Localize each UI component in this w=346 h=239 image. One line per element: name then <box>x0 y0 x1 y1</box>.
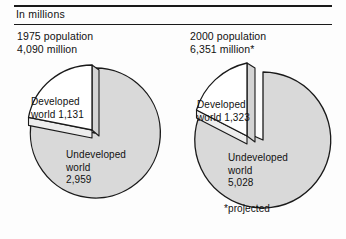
figure-container: In millions 1975 population 4,090 millio… <box>0 0 346 239</box>
pie-2000-label-undeveloped-line3: 5,028 <box>228 177 288 190</box>
pie-2000-label-undeveloped-line2: world <box>228 165 288 178</box>
column-heading-2000-year: 2000 population <box>190 30 266 42</box>
pie-2000-label-undeveloped: Undeveloped world 5,028 <box>228 152 288 190</box>
caption-divider-rule <box>14 24 332 25</box>
pie-1975-label-developed: Developed world 1,131 <box>31 96 84 121</box>
pie-1975-label-undeveloped: Undeveloped world 2,959 <box>66 149 126 187</box>
pie-2000-label-developed-line1: Developed <box>197 99 250 112</box>
pie-1975-label-undeveloped-line1: Undeveloped <box>66 149 126 162</box>
pie-1975-label-undeveloped-line3: 2,959 <box>66 174 126 187</box>
figure-footnote: *projected <box>224 203 270 214</box>
pie-2000-label-developed-line2: world 1,323 <box>197 112 250 125</box>
pie-1975-label-developed-line1: Developed <box>31 96 84 109</box>
column-heading-1975: 1975 population 4,090 million <box>17 30 93 55</box>
column-heading-1975-total: 4,090 million <box>17 43 93 56</box>
pie-2000-label-undeveloped-line1: Undeveloped <box>228 152 288 165</box>
column-heading-1975-year: 1975 population <box>17 30 93 42</box>
pie-1975-label-undeveloped-line2: world <box>66 162 126 175</box>
top-divider-rule <box>14 5 332 7</box>
pie-2000-label-developed: Developed world 1,323 <box>197 99 250 124</box>
pie-1975-label-developed-line2: world 1,131 <box>31 109 84 122</box>
column-heading-2000-total: 6,351 million* <box>190 43 266 56</box>
figure-caption: In millions <box>16 8 65 20</box>
pie-1975-wedge-extrude-right <box>92 65 99 136</box>
column-heading-2000: 2000 population 6,351 million* <box>190 30 266 55</box>
